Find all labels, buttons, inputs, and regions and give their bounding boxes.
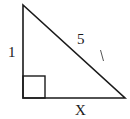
bottom-leg-label: X [75, 103, 86, 118]
hypotenuse-label: 5 [77, 32, 85, 47]
left-leg-label: 1 [8, 45, 16, 60]
right-triangle-diagram [0, 0, 130, 119]
stray-tick-mark [101, 50, 104, 61]
triangle-outline [23, 5, 125, 98]
right-angle-marker [23, 76, 45, 98]
